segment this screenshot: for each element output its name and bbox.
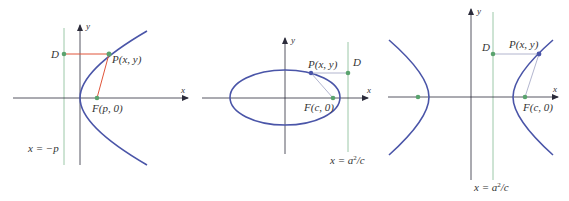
point-F-prime — [416, 95, 421, 100]
ellipse-y-label: y — [290, 35, 295, 45]
point-D — [62, 52, 67, 57]
label-P: P(x, y) — [508, 38, 539, 51]
point-P — [309, 71, 313, 75]
directrix-label: x = a2/c — [473, 181, 509, 193]
point-F — [331, 96, 336, 101]
directrix-label: x = −p — [27, 142, 59, 154]
conic-sections-figure: y x D P(x, y) F(p, 0) x = −p y x P(x, — [0, 0, 569, 201]
point-P — [107, 52, 112, 57]
hyperbola-left-branch — [389, 40, 429, 155]
point-D — [346, 71, 351, 76]
parabola-x-label: x — [180, 85, 185, 95]
label-D: D — [352, 56, 361, 68]
directrix-label: x = a2/c — [329, 154, 365, 166]
hyperbola-x-label: x — [552, 84, 557, 94]
label-F: F(p, 0) — [91, 102, 123, 115]
label-D: D — [481, 41, 490, 53]
label-F: F(c, 0) — [303, 101, 334, 114]
point-F — [523, 95, 528, 100]
directrix-label-prefix: x = a — [329, 154, 354, 166]
hyperbola-y-label: y — [476, 6, 481, 16]
parabola-panel: y x D P(x, y) F(p, 0) x = −p — [13, 21, 188, 165]
directrix-label-suffix: /c — [356, 154, 365, 166]
label-P: P(x, y) — [111, 53, 142, 66]
directrix-label-prefix: x = a — [473, 181, 498, 193]
hyperbola-panel: y x D P(x, y) F(c, 0) x = a2/c — [388, 6, 558, 193]
label-D: D — [50, 48, 59, 60]
label-P: P(x, y) — [307, 58, 338, 71]
parabola-y-label: y — [85, 21, 90, 31]
directrix-label-suffix: /c — [500, 181, 509, 193]
ellipse-x-label: x — [366, 85, 371, 95]
point-D — [491, 52, 496, 57]
hyperbola-right-branch — [513, 40, 553, 155]
ellipse-panel: y x P(x, y) D F(c, 0) x = a2/c — [202, 35, 371, 166]
point-F — [95, 96, 100, 101]
label-F: F(c, 0) — [522, 101, 553, 114]
point-P — [537, 52, 542, 57]
